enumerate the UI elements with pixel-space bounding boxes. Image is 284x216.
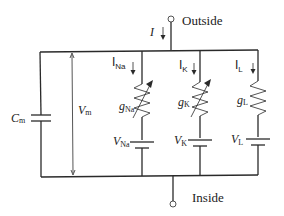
- k-conductance-label: gK: [178, 95, 190, 109]
- potassium-branch: [188, 50, 212, 175]
- vm-arrow: [72, 55, 73, 173]
- voltage-label: Vm: [78, 103, 92, 117]
- l-reversal-label: VL: [231, 132, 243, 147]
- inside-terminal: [170, 201, 176, 207]
- arrow-down-icon: [131, 70, 136, 75]
- cap-wire-top: [40, 52, 41, 115]
- circuit-diagram: Outside I Cm Vm INa gNa VNa: [0, 0, 284, 216]
- na-conductance-label: gNa: [119, 99, 135, 114]
- outside-label: Outside: [182, 13, 223, 28]
- arrow-down-icon: [192, 70, 197, 75]
- total-current-label: I: [149, 25, 155, 39]
- k-reversal-label: VK: [174, 133, 187, 148]
- l-conductance-label: gL: [237, 93, 248, 107]
- l-current-label: IL: [235, 58, 243, 74]
- k-current-label: IK: [179, 58, 188, 74]
- resistor-icon: [250, 81, 266, 115]
- na-reversal-label: VNa: [113, 134, 130, 149]
- capacitance-label: Cm: [11, 111, 26, 125]
- inside-label: Inside: [192, 190, 224, 205]
- outside-terminal: [168, 16, 174, 22]
- bottom-rail: [41, 175, 258, 177]
- na-current-label: INa: [112, 55, 126, 71]
- leak-branch: [246, 50, 270, 175]
- arrow-down-icon: [161, 35, 166, 40]
- arrow-down-icon: [251, 69, 256, 74]
- top-rail: [40, 50, 258, 52]
